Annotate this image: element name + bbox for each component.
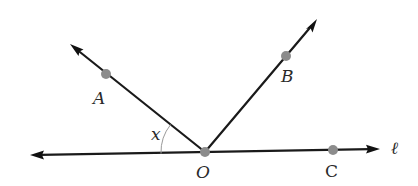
angle-label-x: x [151, 124, 161, 144]
label-O: O [196, 162, 210, 182]
ray-OB [205, 27, 311, 153]
line-l-left-arrowhead-icon [30, 151, 44, 160]
point-O [200, 147, 210, 157]
label-C: C [325, 161, 338, 181]
line-l-right-arrowhead-icon [366, 145, 380, 154]
point-A [101, 69, 111, 79]
angle-x-arc [161, 125, 171, 154]
line-label-l: ℓ [391, 138, 398, 158]
label-A: A [91, 88, 105, 108]
point-C [328, 145, 338, 155]
label-B: B [280, 66, 294, 86]
point-B [281, 51, 291, 61]
angle-diagram: A B C O x ℓ [0, 0, 418, 186]
